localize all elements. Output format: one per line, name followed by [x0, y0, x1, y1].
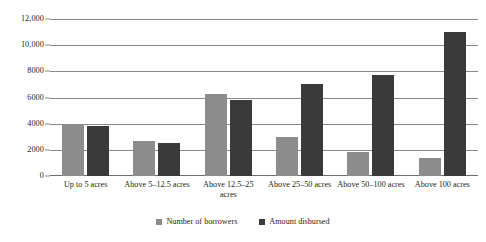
legend-swatch-icon: [259, 219, 265, 225]
x-axis-category-label: Above 100 acres: [407, 180, 478, 200]
chart-legend: Number of borrowersAmount disbursed: [0, 218, 486, 226]
bar-group: [407, 19, 478, 176]
legend-swatch-icon: [156, 219, 162, 225]
bar-1: [230, 100, 252, 176]
legend-label: Amount disbursed: [269, 218, 329, 226]
legend-label: Number of borrowers: [166, 218, 237, 226]
bar-group: [193, 19, 264, 176]
bar-0: [205, 94, 227, 176]
bar-group: [121, 19, 192, 176]
y-axis-tick-label: 8000: [0, 67, 44, 75]
bar-groups: [50, 19, 478, 176]
legend-item[interactable]: Number of borrowers: [156, 218, 237, 226]
grouped-bar-chart: 0200040006000800010,00012,000 Up to 5 ac…: [0, 0, 486, 242]
bar-1: [158, 143, 180, 176]
plot-area: [50, 19, 478, 176]
bar-0: [419, 158, 441, 176]
x-axis-labels: Up to 5 acresAbove 5–12.5 acresAbove 12.…: [50, 180, 478, 200]
y-axis-tick-label: 4000: [0, 120, 44, 128]
bar-0: [347, 152, 369, 176]
bar-group: [264, 19, 335, 176]
bar-1: [87, 126, 109, 176]
y-axis-tick-label: 0: [0, 172, 44, 180]
bar-1: [301, 84, 323, 176]
y-axis: 0200040006000800010,00012,000: [0, 0, 44, 242]
bar-group: [50, 19, 121, 176]
x-axis-category-label: Above 5–12.5 acres: [121, 180, 192, 200]
x-axis-category-label: Above 12.5–25 acres: [193, 180, 264, 200]
bar-0: [276, 137, 298, 176]
legend-item[interactable]: Amount disbursed: [259, 218, 329, 226]
y-axis-tick-label: 6000: [0, 93, 44, 101]
x-axis-category-label: Above 25–50 acres: [264, 180, 335, 200]
bar-1: [444, 32, 466, 176]
x-axis-category-label: Up to 5 acres: [50, 180, 121, 200]
y-axis-tick-label: 2000: [0, 146, 44, 154]
x-axis-category-label: Above 50–100 acres: [335, 180, 406, 200]
y-axis-tick-label: 12,000: [0, 15, 44, 23]
bar-0: [133, 141, 155, 176]
bar-1: [372, 75, 394, 176]
y-axis-tick-label: 10,000: [0, 41, 44, 49]
bar-group: [335, 19, 406, 176]
bar-0: [62, 124, 84, 176]
